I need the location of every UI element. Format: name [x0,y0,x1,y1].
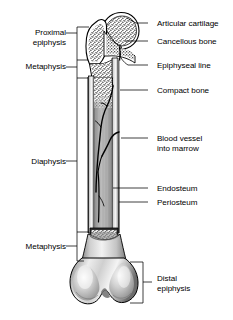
label-epiphyseal-line-line1: Epiphyseal line [157,61,211,71]
label-periosteum-line1: Periosteum [157,198,197,208]
label-compact-bone: Compact bone [157,86,209,96]
label-blood-vessel-line2: into marrow [157,144,202,154]
label-epiphyseal-line: Epiphyseal line [157,61,211,71]
label-cancellous-bone: Cancellous bone [157,37,217,47]
label-distal-epiphysis: Distal epiphysis [157,274,190,293]
label-proximal-epiphysis-line1: Proximal [0,28,66,38]
label-blood-vessel-line1: Blood vessel [157,134,202,144]
label-endosteum-line1: Endosteum [157,184,198,194]
label-distal-epiphysis-line1: Distal [157,274,190,284]
left-bracket-group [66,27,89,261]
label-distal-epiphysis-line2: epiphysis [157,284,190,294]
label-endosteum: Endosteum [157,184,198,194]
long-bone-diagram: Proximal epiphysis Metaphysis Diaphysis … [0,0,233,320]
diaphysis-region [88,58,120,233]
label-metaphysis-distal: Metaphysis [0,242,67,252]
label-articular-cartilage-line1: Articular cartilage [157,19,219,29]
label-periosteum: Periosteum [157,198,197,208]
label-metaphysis-distal-line1: Metaphysis [0,242,66,252]
bracket-metaphysis-proximal [66,60,88,78]
label-cancellous-bone-line1: Cancellous bone [157,37,217,47]
label-compact-bone-line1: Compact bone [157,86,209,96]
label-diaphysis: Diaphysis [0,157,67,167]
label-metaphysis-proximal-line1: Metaphysis [0,62,66,72]
label-proximal-epiphysis-line2: epiphysis [0,38,66,48]
label-blood-vessel-into-marrow: Blood vessel into marrow [157,134,202,153]
bracket-diaphysis [66,78,88,232]
distal-epiphysis-region [70,258,138,304]
label-proximal-epiphysis: Proximal epiphysis [0,28,67,47]
label-articular-cartilage: Articular cartilage [157,19,219,29]
label-diaphysis-line1: Diaphysis [0,157,66,167]
label-metaphysis-proximal: Metaphysis [0,62,67,72]
greater-trochanter-region [86,20,106,64]
